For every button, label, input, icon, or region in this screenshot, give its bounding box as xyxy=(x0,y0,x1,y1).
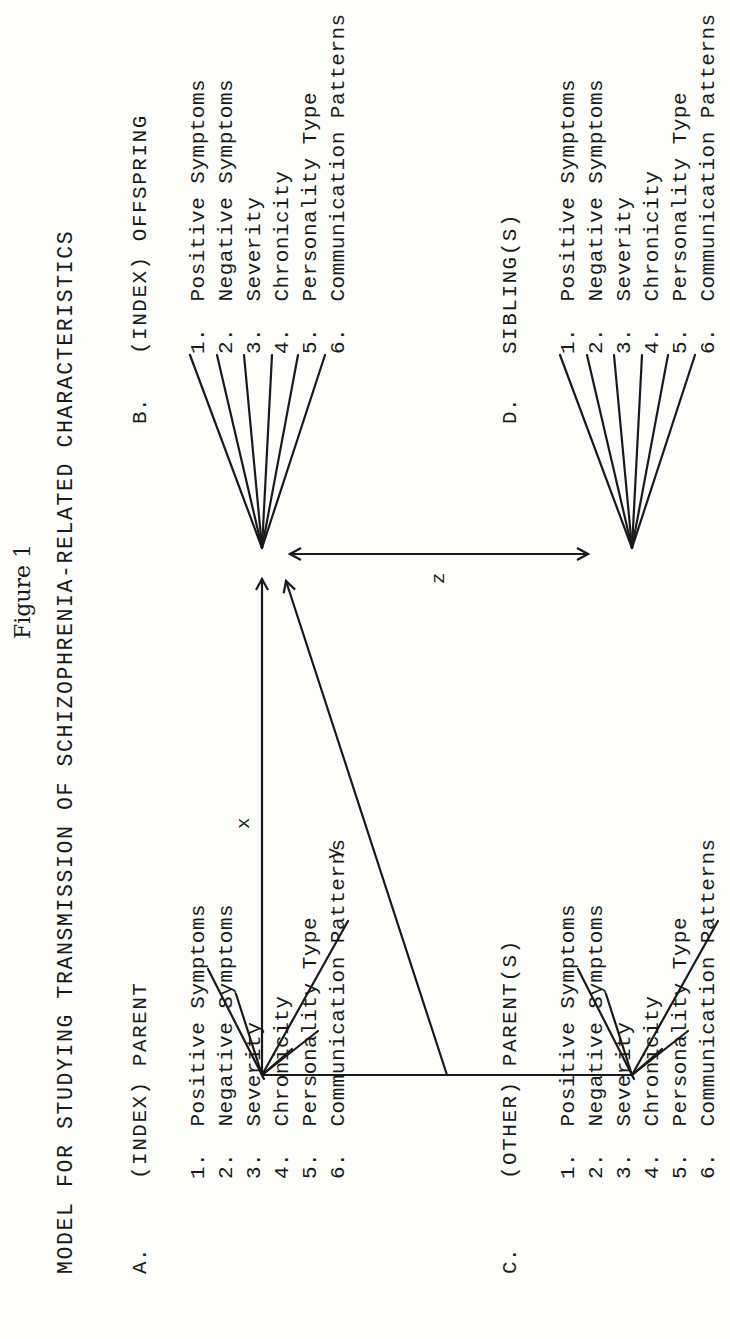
edge-y-arrow xyxy=(286,581,447,1075)
edge-x-label: x xyxy=(235,817,254,829)
edge-z-label: z xyxy=(430,572,449,584)
node-c-fan-lines xyxy=(578,921,718,1079)
edge-y-label: y xyxy=(325,847,344,859)
diagram-connectors xyxy=(0,0,730,1339)
node-b-fan-lines xyxy=(190,355,325,548)
node-a-fan-lines xyxy=(208,921,348,1079)
node-d-fan-lines xyxy=(560,355,695,548)
figure-page: Figure 1 MODEL FOR STUDYING TRANSMISSION… xyxy=(0,0,730,1339)
